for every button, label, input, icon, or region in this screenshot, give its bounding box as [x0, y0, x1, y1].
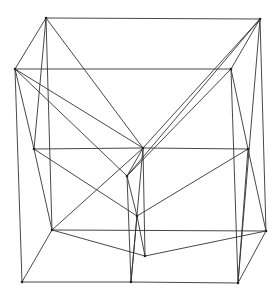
edge-I-N	[131, 216, 137, 282]
vertex-M	[21, 281, 24, 284]
vertex-L	[144, 255, 147, 258]
edge-B-H	[127, 19, 260, 176]
edge-E-J	[34, 149, 52, 230]
edge-D-H	[127, 69, 231, 176]
edge-I-L	[137, 216, 145, 256]
vertex-C	[14, 68, 17, 71]
edge-B-K	[260, 19, 266, 231]
edge-H-N	[127, 176, 131, 282]
edge-G-K	[248, 149, 266, 231]
edge-F-J	[52, 148, 143, 230]
edge-B-D	[231, 19, 260, 69]
edge-A-C	[15, 18, 46, 69]
vertex-E	[33, 148, 36, 151]
vertex-H	[126, 175, 129, 178]
wireframe-diagram	[0, 0, 278, 300]
edge-D-O	[231, 69, 238, 283]
edge-K-O	[238, 231, 266, 283]
edge-A-F	[46, 18, 143, 148]
edge-F-L	[143, 148, 145, 256]
vertex-K	[265, 230, 268, 233]
edge-J-L	[52, 230, 145, 256]
edge-A-B	[46, 18, 260, 19]
vertex-B	[259, 18, 262, 21]
vertex-A	[45, 17, 48, 20]
edge-B-F	[143, 19, 260, 148]
edge-E-I	[34, 149, 137, 216]
edge-J-K	[52, 230, 266, 231]
edge-A-J	[46, 18, 52, 230]
wireframe-svg	[0, 0, 278, 300]
edge-C-E	[15, 69, 34, 149]
edge-F-G	[143, 148, 248, 149]
vertex-D	[230, 68, 233, 71]
edge-J-M	[22, 230, 52, 282]
vertex-F	[142, 147, 145, 150]
edge-E-F	[34, 148, 143, 149]
edge-C-H	[15, 69, 127, 176]
vertex-N	[130, 281, 133, 284]
edge-G-I	[137, 149, 248, 216]
edge-N-O	[131, 282, 238, 283]
edge-C-M	[15, 69, 22, 282]
edge-K-L	[145, 231, 266, 256]
vertex-G	[247, 148, 250, 151]
vertex-I	[136, 215, 139, 218]
edge-group	[15, 18, 266, 283]
edge-C-F	[15, 69, 143, 148]
edge-A-E	[34, 18, 46, 149]
vertex-J	[51, 229, 54, 232]
edge-G-O	[238, 149, 248, 283]
vertex-O	[237, 282, 240, 285]
